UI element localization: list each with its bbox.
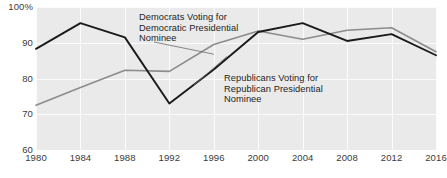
annotation-republicans: Republicans Voting for Republican Presid… — [224, 73, 323, 105]
y-axis-tick-label: 80 — [22, 73, 33, 84]
y-axis-tick-label: 90 — [22, 37, 33, 48]
x-axis-tick-label: 2000 — [247, 152, 269, 163]
annotation-democrats: Democrats Voting for Democratic Presiden… — [139, 12, 238, 44]
gridline-vertical — [436, 7, 437, 150]
x-axis: 1980198419881992199620002004200820122016 — [36, 152, 436, 172]
x-axis-tick-label: 1980 — [25, 152, 47, 163]
x-axis-tick-label: 2016 — [425, 152, 447, 163]
x-axis-tick-label: 1984 — [70, 152, 92, 163]
y-axis-tick-label: 70 — [22, 108, 33, 119]
y-axis-tick-label: 100% — [8, 1, 33, 12]
x-axis-tick-label: 1988 — [114, 152, 136, 163]
x-axis-tick-label: 2012 — [381, 152, 403, 163]
x-axis-tick-label: 2008 — [336, 152, 358, 163]
leader-line-democrats — [154, 42, 214, 54]
x-axis-tick-label: 1992 — [159, 152, 181, 163]
leader-line-republicans — [194, 56, 227, 85]
x-axis-tick-label: 2004 — [292, 152, 314, 163]
x-axis-tick-label: 1996 — [203, 152, 225, 163]
